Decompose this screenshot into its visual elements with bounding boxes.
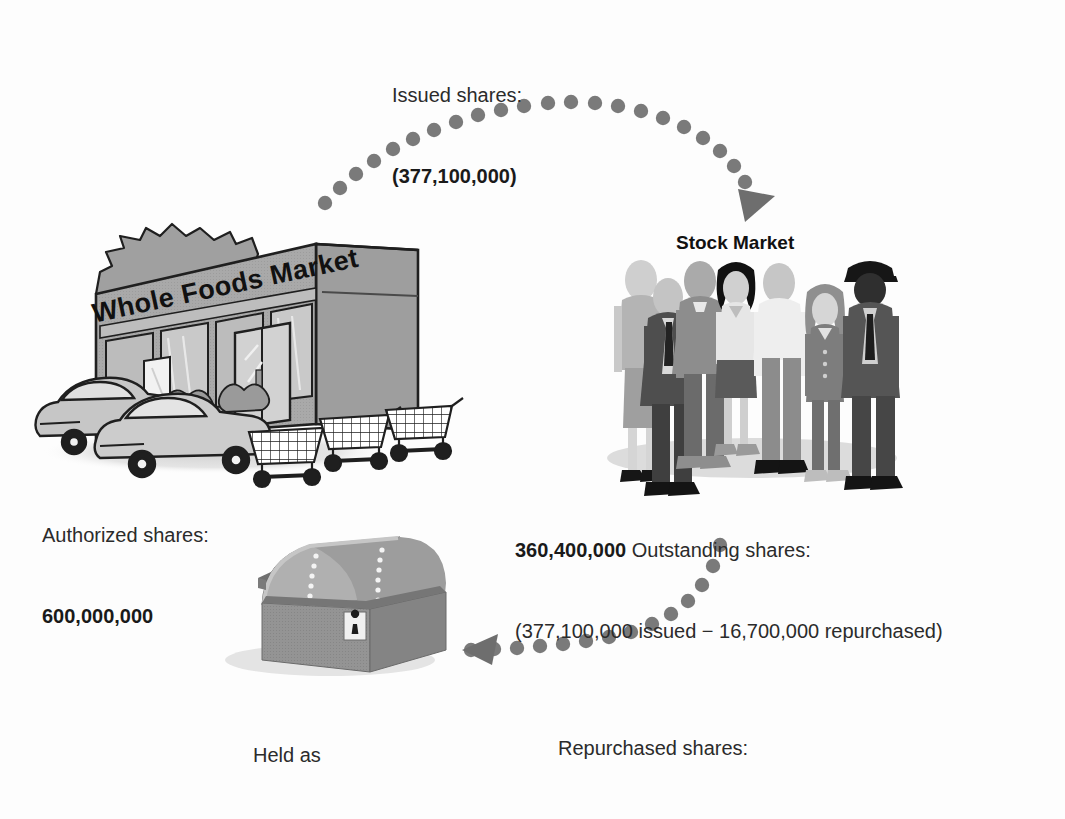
whole-foods-store-illustration: Whole Foods Market: [36, 224, 464, 487]
treasury-chest-illustration: [225, 537, 446, 676]
arrowhead-issued: [738, 189, 775, 222]
issued-shares-title: Issued shares:: [392, 82, 522, 109]
authorized-shares-title: Authorized shares:: [42, 522, 209, 549]
outstanding-shares-value: 360,400,000: [515, 539, 626, 561]
repurchased-shares-label: Repurchased shares: (16,700,000): [558, 681, 748, 819]
authorized-shares-value: 600,000,000: [42, 605, 153, 627]
treasury-line-1: Held as: [253, 742, 413, 769]
repurchased-shares-title: Repurchased shares:: [558, 735, 748, 762]
authorized-shares-label: Authorized shares: 600,000,000: [42, 468, 209, 684]
treasury-stock-label: Held as treasury stock: 16,700,000 (may …: [253, 688, 413, 819]
store-entry-door: [235, 323, 290, 428]
stock-market-people-illustration: [607, 260, 903, 496]
issued-shares-value: (377,100,000): [392, 165, 517, 187]
arrow-issued-shares: [318, 95, 775, 222]
stock-market-title: Stock Market: [676, 229, 794, 256]
outstanding-shares-label: 360,400,000 Outstanding shares: (377,100…: [515, 483, 943, 699]
outstanding-shares-detail: (377,100,000 issued − 16,700,000 repurch…: [515, 618, 943, 645]
issued-shares-label: Issued shares: (377,100,000): [392, 28, 522, 244]
arrowhead-repurchased: [462, 634, 498, 665]
outstanding-shares-title: Outstanding shares:: [626, 539, 811, 561]
diagram-canvas: Whole Foods Market: [0, 0, 1065, 819]
